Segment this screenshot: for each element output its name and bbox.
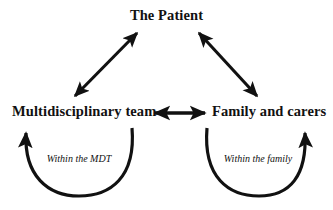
node-label-family-and-carers: Family and carers (212, 104, 326, 119)
self-loop-caption-family: Within the family (183, 154, 333, 164)
node-label-multidisciplinary-team: Multidisciplinary team (12, 104, 156, 119)
node-label-patient: The Patient (0, 8, 333, 23)
diagram-canvas: The Patient Multidisciplinary team Famil… (0, 0, 333, 210)
self-loop-caption-mdt: Within the MDT (4, 154, 154, 164)
connector-mdt-to-patient (75, 33, 137, 96)
connector-patient-to-family (199, 33, 257, 96)
